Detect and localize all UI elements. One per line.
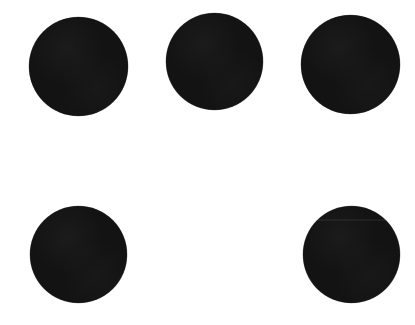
- dot-pattern-canvas: [0, 0, 415, 325]
- dot-bottom-right[interactable]: [303, 206, 400, 303]
- empty-slot-bottom-center: [166, 206, 263, 303]
- dot-bottom-left[interactable]: [30, 206, 127, 303]
- dot-top-right[interactable]: [301, 15, 400, 114]
- dot-top-left[interactable]: [29, 17, 128, 116]
- dot-top-center[interactable]: [166, 13, 263, 110]
